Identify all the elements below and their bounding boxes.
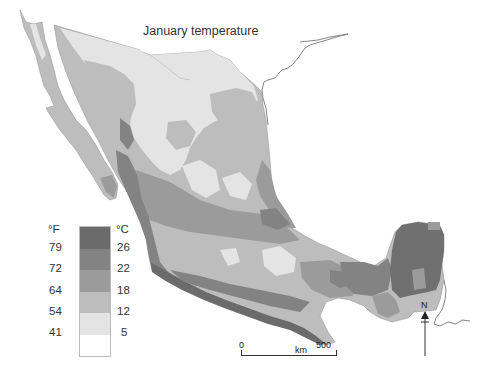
scale-line xyxy=(241,355,337,356)
scale-tick-start xyxy=(241,350,242,356)
scale-start-label: 0 xyxy=(239,340,244,350)
legend-band-12-18 xyxy=(80,292,110,314)
scale-unit-label: km xyxy=(295,345,307,355)
legend-c-tick: 26 xyxy=(117,241,130,253)
legend-band-below-5 xyxy=(80,335,110,357)
rio-grande-border xyxy=(262,34,348,125)
north-arrow: N xyxy=(418,300,432,360)
legend-c-tick: 12 xyxy=(117,305,130,317)
map-title: January temperature xyxy=(143,24,258,38)
legend-f-tick: 79 xyxy=(49,241,62,253)
legend-f-tick: 72 xyxy=(49,262,62,274)
scale-tick-end xyxy=(336,350,337,356)
legend-band-5-12 xyxy=(80,313,110,335)
legend-band-18-22 xyxy=(80,270,110,292)
north-arrow-icon xyxy=(418,300,432,360)
scale-bar: 0 km 500 xyxy=(240,340,340,360)
legend-c-tick: 5 xyxy=(121,326,127,338)
legend-c-tick: 18 xyxy=(117,284,130,296)
fahrenheit-unit-label: °F xyxy=(48,223,60,235)
legend-color-scale xyxy=(79,226,111,357)
legend-c-tick: 22 xyxy=(117,262,130,274)
legend-f-tick: 54 xyxy=(49,305,62,317)
legend-f-tick: 41 xyxy=(49,326,62,338)
scale-end-label: 500 xyxy=(316,340,331,350)
legend-band-22-26 xyxy=(80,249,110,271)
legend-f-tick: 64 xyxy=(49,284,62,296)
legend-band-26plus xyxy=(80,227,110,249)
temperature-legend: °F °C 79 72 64 54 41 26 22 18 12 5 xyxy=(0,0,130,367)
celsius-unit-label: °C xyxy=(116,223,129,235)
